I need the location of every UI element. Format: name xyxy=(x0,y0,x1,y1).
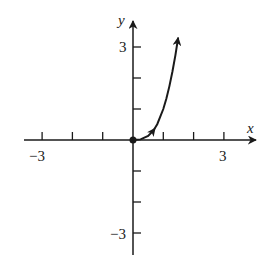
y-tick-label-max: 3 xyxy=(119,39,127,55)
x-tick-label-max: 3 xyxy=(219,148,227,164)
function-curve xyxy=(133,38,178,140)
axes xyxy=(24,21,256,255)
y-tick-label-min: −3 xyxy=(110,226,126,242)
graph: x y −3 3 3 −3 xyxy=(0,0,271,263)
x-axis-label: x xyxy=(246,120,254,136)
y-axis-label: y xyxy=(116,12,125,28)
x-tick-label-min: −3 xyxy=(29,148,45,164)
start-point-dot xyxy=(130,137,137,144)
